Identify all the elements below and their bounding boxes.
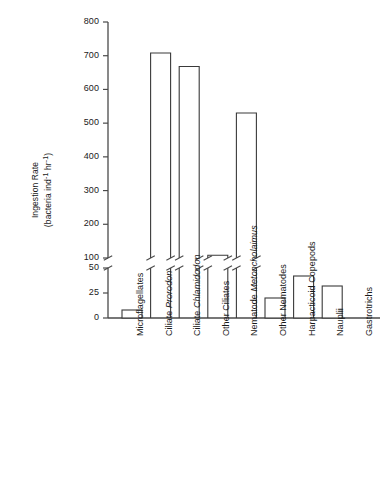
y-tick-label-25: 25 bbox=[67, 288, 99, 297]
y-tick-label-300: 300 bbox=[67, 186, 99, 195]
y-tick-label-400: 400 bbox=[67, 152, 99, 161]
bar-break-mark-left-3 bbox=[204, 256, 212, 270]
x-axis-label-2: Ciliate Chlamidodon bbox=[193, 254, 202, 336]
y-tick-label-0: 0 bbox=[67, 313, 99, 322]
x-axis-label-3: Other Ciliates bbox=[222, 281, 231, 336]
y-tick-label-100: 100 bbox=[67, 253, 99, 262]
y-axis-title-line1: Ingestion Rate bbox=[30, 153, 41, 227]
x-axis-label-5: Other Nematodes bbox=[279, 264, 288, 336]
bar-break-mark-right-3 bbox=[224, 256, 232, 270]
bar-break-mark-right-1 bbox=[166, 256, 174, 270]
bar-break-mark-left-4 bbox=[232, 256, 240, 270]
y-tick-label-600: 600 bbox=[67, 84, 99, 93]
y-axis-title: Ingestion Rate (bacteria ind-1 hr-1) bbox=[12, 120, 72, 260]
y-axis-title-line2: (bacteria ind-1 hr-1) bbox=[41, 153, 55, 227]
x-axis-label-6: Harpacticoid Copepods bbox=[308, 241, 317, 336]
y-tick-label-500: 500 bbox=[67, 118, 99, 127]
y-tick-label-200: 200 bbox=[67, 219, 99, 228]
ingestion-rate-bar-chart: Ingestion Rate (bacteria ind-1 hr-1) 025… bbox=[0, 0, 390, 480]
x-axis-label-8: Gastrotrichs bbox=[365, 287, 374, 336]
y-tick-label-800: 800 bbox=[67, 17, 99, 26]
x-axis-label-0: Microflagellates bbox=[136, 273, 145, 336]
y-tick-label-700: 700 bbox=[67, 51, 99, 60]
x-axis-label-1: Ciliate Prorodon bbox=[165, 271, 174, 336]
x-axis-label-7: Nauplii bbox=[336, 308, 345, 336]
x-axis-label-4: Nematode Metoncholaimus bbox=[250, 225, 259, 336]
bar-break-mark-left-1 bbox=[146, 256, 154, 270]
y-tick-label-50: 50 bbox=[67, 263, 99, 272]
bar-break-mark-left-2 bbox=[175, 256, 183, 270]
